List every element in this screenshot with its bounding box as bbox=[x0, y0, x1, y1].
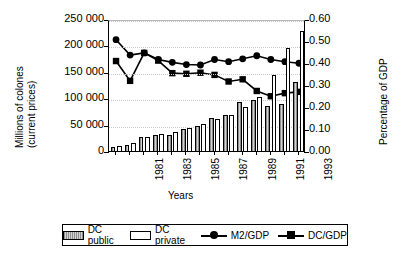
bar-group bbox=[223, 21, 234, 152]
y-axis-left-title-line1: Millions of colones bbox=[14, 66, 26, 148]
bar-group bbox=[181, 21, 192, 152]
bar-group bbox=[293, 21, 304, 152]
legend-item-dc-gdp: DC/GDP bbox=[278, 230, 347, 241]
y-axis-left-tick-label: 150 000 bbox=[44, 65, 104, 77]
x-axis-tick-label: 1983 bbox=[182, 158, 193, 192]
bar-dc-private bbox=[201, 124, 206, 152]
legend-label-dc-gdp: DC/GDP bbox=[308, 230, 347, 241]
bar-dc-private bbox=[243, 107, 248, 152]
bar-group bbox=[279, 21, 290, 152]
bar-hatched-icon bbox=[63, 231, 84, 240]
bar-dc-private bbox=[159, 134, 164, 152]
bar-dc-public bbox=[167, 135, 172, 152]
bar-dc-public bbox=[265, 106, 270, 152]
bar-group bbox=[237, 21, 248, 152]
bar-dc-public bbox=[153, 135, 158, 152]
bar-dc-public bbox=[251, 100, 256, 152]
bar-group bbox=[125, 21, 136, 152]
bar-group bbox=[153, 21, 164, 152]
bar-dc-public bbox=[223, 115, 228, 152]
legend-label-m2-gdp: M2/GDP bbox=[231, 230, 269, 241]
bar-dc-public bbox=[181, 129, 186, 152]
chart-figure: Millions of colones (current prices) Per… bbox=[0, 0, 407, 255]
bar-dc-public bbox=[293, 82, 298, 152]
x-axis-tick-label: 1985 bbox=[210, 158, 221, 192]
bar-dc-private bbox=[300, 31, 305, 152]
bar-dc-private bbox=[215, 119, 220, 152]
y-axis-left-title-line2: (current prices) bbox=[26, 66, 38, 148]
bar-dc-public bbox=[279, 104, 284, 152]
bar-dc-private bbox=[257, 97, 262, 152]
bar-group bbox=[167, 21, 178, 152]
y-axis-right-tick-label: 0.10 bbox=[309, 122, 351, 134]
bar-dc-private bbox=[187, 128, 192, 152]
y-axis-left-tick-label: 200 000 bbox=[44, 38, 104, 50]
bar-white-icon bbox=[130, 231, 151, 240]
bar-group bbox=[265, 21, 276, 152]
chart-legend: DC public DC private M2/GDP DC/GDP bbox=[62, 224, 348, 246]
y-axis-right-tick-label: 0.30 bbox=[309, 78, 351, 90]
x-axis-tick-label: 1987 bbox=[238, 158, 249, 192]
y-axis-right-tick-label: 0.20 bbox=[309, 100, 351, 112]
line-square-icon bbox=[278, 231, 304, 240]
x-axis-tick-label: 1989 bbox=[267, 158, 278, 192]
y-axis-left-tick-label: 100 000 bbox=[44, 91, 104, 103]
bar-dc-public bbox=[195, 126, 200, 152]
bar-dc-private bbox=[272, 75, 277, 152]
bar-series-layer bbox=[109, 21, 304, 152]
y-axis-right-tick-label: 0.00 bbox=[309, 144, 351, 156]
line-circle-icon bbox=[201, 231, 227, 240]
x-axis-tick-label: 1991 bbox=[295, 158, 306, 192]
y-axis-left-title: Millions of colones (current prices) bbox=[14, 66, 38, 148]
y-axis-left-tick-label: 0 bbox=[44, 144, 104, 156]
bar-dc-public bbox=[209, 118, 214, 152]
bar-group bbox=[209, 21, 220, 152]
legend-item-m2-gdp: M2/GDP bbox=[201, 230, 269, 241]
y-axis-right-tick-labels: 0.000.100.200.300.400.500.60 bbox=[309, 0, 351, 255]
bar-group bbox=[111, 21, 122, 152]
bar-dc-public bbox=[139, 137, 144, 152]
x-axis-line bbox=[108, 151, 305, 152]
bar-group bbox=[195, 21, 206, 152]
legend-item-dc-public: DC public bbox=[63, 224, 121, 246]
x-axis-tick-label: 1993 bbox=[323, 158, 334, 192]
plot-area bbox=[108, 20, 305, 152]
y-axis-right-title: Percentage of GDP bbox=[378, 58, 389, 145]
bar-dc-private bbox=[286, 48, 291, 152]
bar-group bbox=[139, 21, 150, 152]
bar-dc-private bbox=[145, 137, 150, 152]
legend-label-dc-public: DC public bbox=[88, 224, 122, 246]
y-axis-right-tick-label: 0.40 bbox=[309, 56, 351, 68]
bar-dc-private bbox=[229, 115, 234, 152]
legend-item-dc-private: DC private bbox=[130, 224, 191, 246]
x-axis-tick-label: 1981 bbox=[154, 158, 165, 192]
y-axis-left-tick-labels: 050 000100 000150 000200 000250 000 bbox=[44, 0, 104, 255]
y-axis-left-tick-label: 250 000 bbox=[44, 12, 104, 24]
y-axis-right-tick-label: 0.60 bbox=[309, 12, 351, 24]
bar-dc-private bbox=[173, 132, 178, 152]
bar-group bbox=[251, 21, 262, 152]
y-axis-left-tick-label: 50 000 bbox=[44, 118, 104, 130]
legend-label-dc-private: DC private bbox=[155, 224, 192, 246]
bar-dc-public bbox=[237, 102, 242, 152]
y-axis-right-tick-label: 0.50 bbox=[309, 34, 351, 46]
